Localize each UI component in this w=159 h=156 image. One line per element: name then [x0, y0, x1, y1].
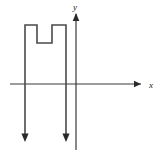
graph-canvas: x y [0, 0, 159, 156]
y-axis-label: y [72, 2, 77, 12]
right-branch-arrowhead [62, 134, 69, 143]
x-axis-arrowhead [134, 81, 141, 88]
y-axis-arrowhead [73, 13, 80, 21]
figure-container: x y [0, 0, 159, 156]
x-axis-label: x [148, 80, 153, 90]
step-curve [25, 25, 66, 140]
left-branch-arrowhead [21, 134, 28, 143]
